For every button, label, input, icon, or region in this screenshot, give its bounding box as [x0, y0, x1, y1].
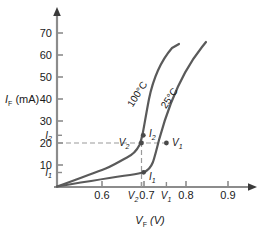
curves-group: [57, 42, 206, 187]
y-axis-title-unit: (mA): [15, 93, 39, 105]
v1-axis-sub: 1: [167, 196, 171, 203]
i1-sub: 1: [152, 177, 156, 184]
x-tick-label-0.6: 0.6: [94, 189, 109, 201]
annotation-label-v1: V1: [172, 137, 183, 150]
annotation-label-i1: I1: [149, 171, 156, 184]
x-tick-label-v1: V1: [161, 190, 172, 203]
curve-label-100c: 100°C: [125, 79, 149, 108]
y-tick-label-40: 40: [40, 93, 52, 105]
curve-25c: [57, 42, 206, 187]
marker-i1: [141, 170, 146, 175]
y-tick-label-60: 60: [40, 49, 52, 61]
axes-group: [53, 7, 257, 191]
x-axis-arrow-icon: [248, 183, 257, 191]
y-axis-arrow-icon: [53, 7, 61, 16]
plot-canvas: 70 60 50 40 30 20 10 I2 I1 0.6 0.7 0.8 0…: [0, 0, 266, 238]
y-tick-label-i2: I2: [45, 130, 52, 143]
y-axis-title: IF (mA): [5, 93, 39, 107]
x-tick-label-0.7: 0.7: [139, 189, 154, 201]
annotation-label-i2: I2: [149, 128, 156, 141]
marker-v1: [164, 141, 169, 146]
diode-forward-characteristic-figure: 70 60 50 40 30 20 10 I2 I1 0.6 0.7 0.8 0…: [0, 0, 266, 238]
x-axis-title-unit: (V): [150, 214, 165, 226]
annotation-label-v2: V2: [119, 137, 130, 150]
x-tick-label-v2: V2: [128, 190, 139, 203]
v2-axis-sub: 2: [133, 196, 138, 203]
i2-sub: 2: [151, 134, 156, 141]
v1-sub: 1: [179, 143, 183, 150]
y-tick-label-30: 30: [40, 115, 52, 127]
x-tick-label-0.8: 0.8: [178, 189, 193, 201]
x-tick-labels: 0.6 0.7 0.8 0.9 V2 V1: [94, 189, 235, 203]
y-tick-labels: 70 60 50 40 30 20 10 I2 I1: [40, 27, 52, 179]
curve-100c: [57, 44, 179, 187]
marker-i2: [141, 133, 146, 138]
y-tick-label-50: 50: [40, 71, 52, 83]
v2-sub: 2: [124, 143, 129, 150]
x-axis-title: VF (V): [135, 214, 165, 228]
i2-axis-sub: 2: [47, 135, 52, 142]
i1-axis-sub: 1: [48, 172, 52, 179]
marker-v2: [139, 141, 144, 146]
y-tick-label-70: 70: [40, 27, 52, 39]
x-tick-label-0.9: 0.9: [220, 189, 235, 201]
